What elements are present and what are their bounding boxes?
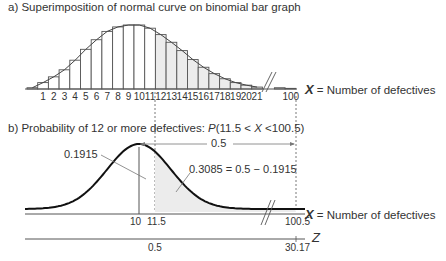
z-tick-30-17: 30.17: [285, 242, 310, 253]
x-tick-11-5: 11.5: [147, 216, 166, 227]
x-axis-label-a: X = Number of defectives: [305, 82, 435, 97]
x-tick-100-5: 100.5: [285, 216, 310, 227]
bar: [81, 49, 92, 89]
bar: [188, 60, 199, 89]
bar: [38, 83, 49, 89]
half-area-label: 0.5: [211, 137, 226, 149]
x-tick-label: 21: [249, 91, 265, 102]
bar: [166, 42, 177, 89]
bar: [123, 25, 134, 89]
x-tick-10: 10: [130, 216, 141, 227]
panel-b-title: b) Probability of 12 or more defectives:…: [8, 122, 304, 134]
bar: [177, 51, 188, 89]
z-axis-label: Z: [312, 228, 320, 246]
z-tick-0-5: 0.5: [148, 242, 162, 253]
right-area-label: 0.3085 = 0.5 − 0.1915: [189, 163, 297, 175]
bar: [145, 28, 156, 89]
shaded-tail-area: [155, 152, 296, 212]
bar: [70, 60, 81, 89]
bar: [113, 27, 124, 89]
bar: [198, 67, 209, 89]
bar: [134, 25, 145, 89]
bar: [102, 31, 113, 89]
left-area-label: 0.1915: [64, 148, 98, 160]
bar: [155, 35, 166, 89]
x-axis-label-b: X = Number of defectives: [305, 207, 435, 222]
bar: [91, 40, 102, 89]
x-tick-label: 100: [282, 91, 298, 102]
